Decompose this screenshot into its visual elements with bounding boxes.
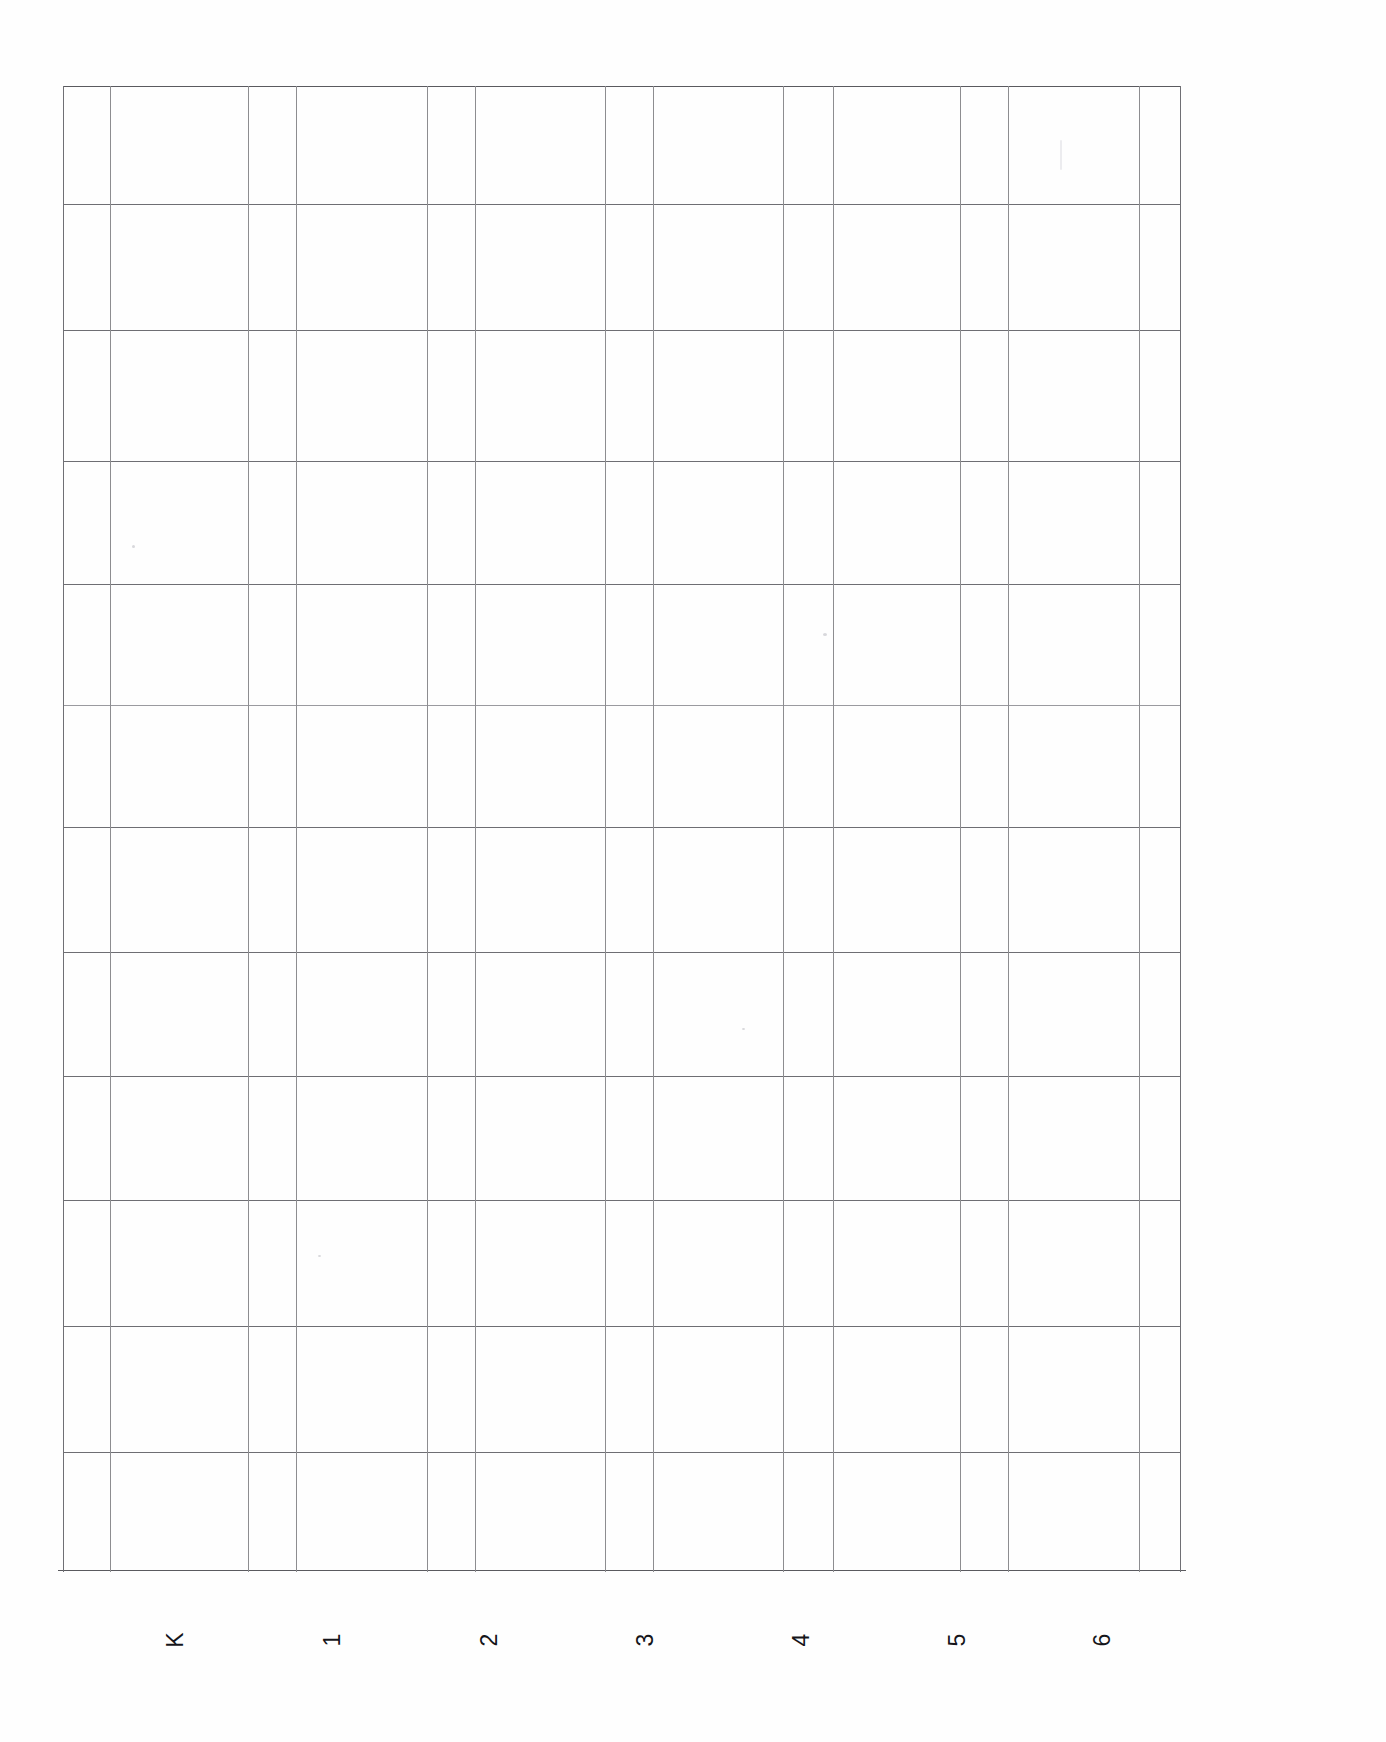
scan-speckle xyxy=(823,633,827,636)
grid-vline xyxy=(605,86,606,1572)
row-label-2: 2 xyxy=(476,1610,502,1670)
grid-hline xyxy=(63,330,1180,331)
grid-hline xyxy=(63,952,1180,953)
row-label-3: 3 xyxy=(632,1610,658,1670)
scan-speckle xyxy=(1060,140,1062,170)
grid-vline xyxy=(248,86,249,1572)
scan-speckle xyxy=(742,1028,745,1030)
grid-vline xyxy=(110,86,111,1572)
grid-vline xyxy=(475,86,476,1572)
grid-vline xyxy=(960,86,961,1572)
grid-vline xyxy=(1139,86,1140,1572)
grid-vline xyxy=(296,86,297,1572)
row-label-4: 4 xyxy=(788,1610,814,1670)
grid-hline xyxy=(63,827,1180,828)
grid-hline xyxy=(63,705,1180,706)
grid-hline xyxy=(63,1326,1180,1327)
grid-vline xyxy=(783,86,784,1572)
row-label-6: 6 xyxy=(1089,1610,1115,1670)
grid-vline-left-edge xyxy=(63,86,64,1572)
row-label-5: 5 xyxy=(944,1610,970,1670)
grid-vline xyxy=(1008,86,1009,1572)
scan-speckle xyxy=(318,1255,321,1257)
grid-vline xyxy=(653,86,654,1572)
grid-hline xyxy=(63,1200,1180,1201)
grid-hline-bottom xyxy=(58,1570,1186,1571)
row-label-k: K xyxy=(162,1610,188,1670)
page-canvas: K 1 2 3 4 5 6 xyxy=(0,0,1386,1742)
grid-hline xyxy=(63,1076,1180,1077)
grid-hline xyxy=(63,204,1180,205)
grid-hline xyxy=(63,461,1180,462)
grid-hline-top xyxy=(63,86,1180,87)
scanned-form-sheet: K 1 2 3 4 5 6 xyxy=(0,0,1386,1742)
grid-hline xyxy=(63,584,1180,585)
row-label-1: 1 xyxy=(319,1610,345,1670)
grid-vline xyxy=(833,86,834,1572)
grid-vline-right-edge xyxy=(1180,86,1181,1572)
scan-speckle xyxy=(132,545,135,548)
grid-vline xyxy=(427,86,428,1572)
grid-hline xyxy=(63,1452,1180,1453)
